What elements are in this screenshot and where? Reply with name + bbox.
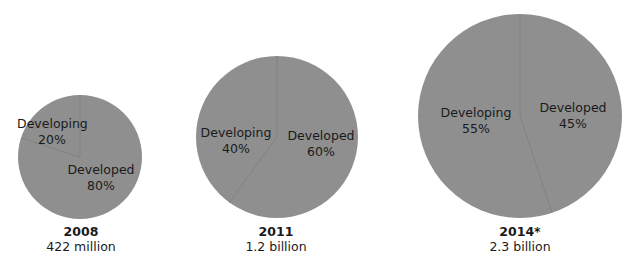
slice-percent: 45% [537, 116, 609, 132]
total-label: 2.3 billion [440, 239, 600, 254]
slice-percent: 80% [66, 178, 136, 194]
slice-label-2011-developing: Developing 40% [199, 125, 273, 157]
slice-name: Developed [66, 162, 136, 178]
slice-label-2014-developed: Developed 45% [537, 100, 609, 132]
caption-2008: 2008 422 million [1, 224, 161, 254]
slice-name: Developed [286, 128, 356, 144]
slice-name: Developing [199, 125, 273, 141]
year-label: 2008 [1, 224, 161, 239]
slice-label-2008-developed: Developed 80% [66, 162, 136, 194]
slice-percent: 60% [286, 144, 356, 160]
caption-2014: 2014* 2.3 billion [440, 224, 600, 254]
year-label: 2014* [440, 224, 600, 239]
slice-name: Developed [537, 100, 609, 116]
slice-label-2011-developed: Developed 60% [286, 128, 356, 160]
year-label: 2011 [196, 224, 356, 239]
total-label: 422 million [1, 239, 161, 254]
slice-label-2008-developing: Developing 20% [17, 116, 87, 148]
pie-2008 [18, 95, 142, 219]
slice-label-2014-developing: Developing 55% [438, 105, 514, 137]
total-label: 1.2 billion [196, 239, 356, 254]
caption-2011: 2011 1.2 billion [196, 224, 356, 254]
slice-name: Developing [438, 105, 514, 121]
slice-name: Developing [17, 116, 87, 132]
slice-percent: 40% [199, 141, 273, 157]
slice-percent: 55% [438, 121, 514, 137]
slice-percent: 20% [17, 132, 87, 148]
